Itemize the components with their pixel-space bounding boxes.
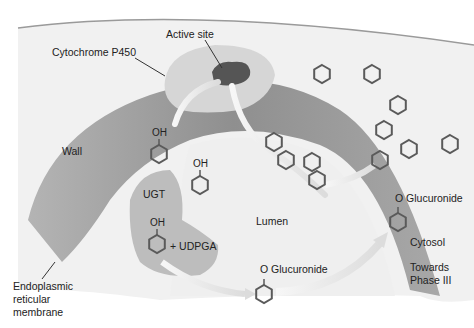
label-oh-2: OH xyxy=(193,158,208,169)
label-oh-3: OH xyxy=(150,217,165,228)
label-towards-1: Towards xyxy=(410,261,449,273)
label-udpga: + UDPGA xyxy=(170,240,216,252)
label-wall: Wall xyxy=(62,145,82,157)
label-lumen: Lumen xyxy=(256,215,288,227)
label-oh-1: OH xyxy=(152,127,167,138)
label-ugt: UGT xyxy=(143,188,165,200)
er-metabolism-diagram: Cytochrome P450 Active site Wall UGT Lum… xyxy=(0,0,474,328)
label-er-3: membrane xyxy=(13,306,63,318)
label-er-1: Endoplasmic xyxy=(13,280,73,292)
label-cytochrome-p450: Cytochrome P450 xyxy=(52,46,136,58)
label-er-2: reticular xyxy=(13,293,50,305)
label-glucuronide-cytosol: O Glucuronide xyxy=(395,192,463,204)
label-cytosol: Cytosol xyxy=(410,236,445,248)
label-towards-2: Phase III xyxy=(410,274,451,286)
label-active-site: Active site xyxy=(166,28,214,40)
label-glucuronide-lumen: O Glucuronide xyxy=(260,263,328,275)
